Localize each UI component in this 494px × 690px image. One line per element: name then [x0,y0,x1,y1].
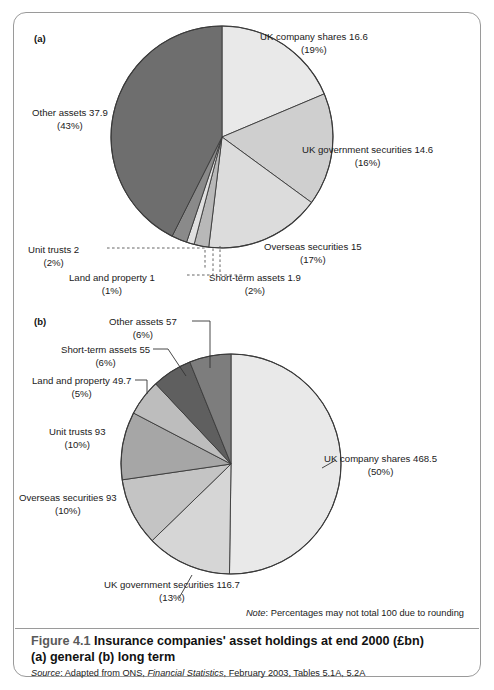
caption-divider [15,628,479,629]
label-b-short-term-assets-text: Short-term assets 55 [61,344,150,355]
caption-title: Figure 4.1 Insurance companies' asset ho… [31,634,466,650]
pie-chart-a [110,25,334,249]
label-b-overseas-securities-text: Overseas securities 93 [19,492,117,503]
panel-b-tag: (b) [34,316,46,327]
label-a-uk-company-shares-text: UK company shares 16.6 [260,31,368,42]
caption-source: Source: Adapted from ONS, Financial Stat… [31,667,466,679]
label-a-short-term-assets-pct: (2%) [209,285,301,298]
label-a-overseas-securities: Overseas securities 15 (17%) [264,241,362,266]
source-publication: Financial Statistics [147,668,223,678]
label-a-uk-company-shares: UK company shares 16.6 (19%) [260,31,368,56]
label-b-uk-government-securities: UK government securities 116.7 (13%) [104,579,240,604]
label-b-uk-government-securities-pct: (13%) [104,592,240,605]
label-b-short-term-assets: Short-term assets 55 (6%) [61,344,150,369]
label-a-short-term-assets: Short-term assets 1.9 (2%) [209,272,301,297]
label-a-unit-trusts-text: Unit trusts 2 [28,244,79,255]
note-line: Note: Percentages may not total 100 due … [246,608,464,618]
label-b-unit-trusts: Unit trusts 93 (10%) [49,426,106,451]
label-a-land-and-property-text: Land and property 1 [69,272,155,283]
leader-a-unit-trusts [107,248,205,268]
label-a-unit-trusts-pct: (2%) [28,257,79,270]
panel-a-tag: (a) [34,33,46,44]
label-a-short-term-assets-text: Short-term assets 1.9 [209,272,301,283]
source-label: Source [31,668,60,678]
figure-frame: (a) UK company shares 16.6 (19%) UK gove… [13,12,481,677]
leader-group-a [107,246,242,275]
pie-a-canvas [110,25,334,249]
caption-subtitle: (a) general (b) long term [31,650,466,666]
label-a-uk-company-shares-pct: (19%) [260,44,368,57]
label-a-land-and-property: Land and property 1 (1%) [69,272,155,297]
leader-a-short-term-assets [220,246,242,275]
label-b-unit-trusts-pct: (10%) [49,439,106,452]
label-b-overseas-securities: Overseas securities 93 (10%) [19,492,117,517]
label-b-overseas-securities-pct: (10%) [19,505,117,518]
label-b-other-assets-text: Other assets 57 [109,316,177,327]
label-b-other-assets-pct: (6%) [109,329,177,342]
caption-block: Figure 4.1 Insurance companies' asset ho… [31,634,466,679]
label-b-uk-government-securities-text: UK government securities 116.7 [104,579,240,590]
label-b-other-assets: Other assets 57 (6%) [109,316,177,341]
note-text: : Percentages may not total 100 due to r… [266,608,464,618]
leader-a-land-and-property [187,246,213,275]
label-b-land-and-property-pct: (5%) [32,388,131,401]
label-a-other-assets-text: Other assets 37.9 [32,107,108,118]
label-a-other-assets-pct: (43%) [32,120,108,133]
label-b-land-and-property-text: Land and property 49.7 [32,375,131,386]
source-text-tail: , February 2003, Tables 5.1A, 5.2A [224,668,366,678]
label-a-unit-trusts: Unit trusts 2 (2%) [28,244,79,269]
label-a-uk-government-securities-pct: (16%) [302,157,433,170]
label-b-unit-trusts-text: Unit trusts 93 [49,426,106,437]
label-a-overseas-securities-text: Overseas securities 15 [264,241,362,252]
source-text-lead: : Adapted from ONS, [60,668,147,678]
label-a-other-assets: Other assets 37.9 (43%) [32,107,108,132]
label-b-short-term-assets-pct: (6%) [61,357,150,370]
note-label: Note [246,608,266,618]
label-b-land-and-property: Land and property 49.7 (5%) [32,375,131,400]
pie-chart-b [120,353,342,575]
pie-b-canvas [120,353,342,575]
figure-title-text: Insurance companies' asset holdings at e… [94,634,424,648]
label-a-uk-government-securities-text: UK government securities 14.6 [302,144,433,155]
label-a-uk-government-securities: UK government securities 14.6 (16%) [302,144,433,169]
label-a-land-and-property-pct: (1%) [69,285,155,298]
label-a-overseas-securities-pct: (17%) [264,254,362,267]
label-b-uk-company-shares: UK company shares 468.5 (50%) [324,453,437,478]
figure-number: Figure 4.1 [31,634,91,648]
label-b-uk-company-shares-text: UK company shares 468.5 [324,453,437,464]
label-b-uk-company-shares-pct: (50%) [324,466,437,479]
